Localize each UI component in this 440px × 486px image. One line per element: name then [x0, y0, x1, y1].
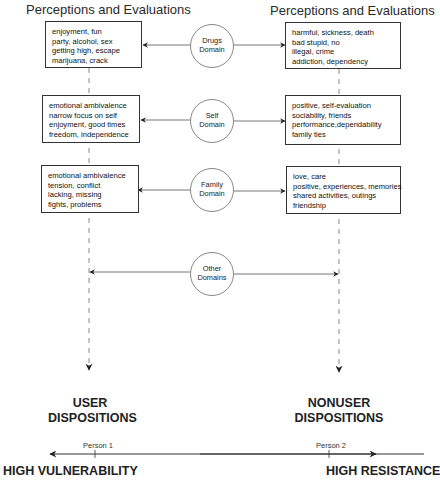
box-line: getting high, escape [52, 46, 135, 56]
self-domain-node: Self Domain [190, 99, 234, 143]
user-self-box: emotional ambivalence narrow focus on se… [42, 95, 140, 143]
box-line: freedom, independence [49, 130, 133, 140]
node-label: Domain [199, 190, 224, 199]
box-line: love, care [293, 172, 394, 182]
box-line: marijuana, crack [52, 56, 135, 66]
node-label: Domain [199, 46, 224, 55]
person-2-label: Person 2 [316, 441, 346, 450]
nonuser-family-box: love, care positive, experiences, memori… [286, 166, 401, 214]
right-column-title: Perceptions and Evaluations [270, 3, 435, 18]
node-label: Domain [199, 121, 224, 130]
nonuser-drugs-box: harmful, sickness, death bad stupid, no … [285, 22, 401, 69]
box-line: party, alcohol, sex [52, 37, 135, 47]
box-line: emotional ambivalence [49, 101, 133, 111]
box-line: bad stupid, no [292, 38, 394, 48]
left-column-title: Perceptions and Evaluations [26, 2, 191, 17]
box-line: emotional ambivalence [48, 171, 132, 181]
high-vulnerability-label: HIGH VULNERABILITY [3, 464, 138, 478]
box-line: illegal, crime [292, 47, 394, 57]
family-domain-node: Family Domain [190, 168, 234, 212]
user-family-box: emotional ambivalence tension, conflict … [41, 165, 139, 213]
box-line: narrow focus on self [49, 111, 133, 121]
box-line: addiction, dependency [292, 57, 394, 67]
box-line: shared activities, outings [293, 191, 394, 201]
box-line: family ties [292, 130, 394, 140]
nonuser-dispositions-label: NONUSER DISPOSITIONS [286, 396, 392, 426]
drugs-domain-node: Drugs Domain [190, 24, 234, 68]
box-line: harmful, sickness, death [292, 28, 394, 38]
disp-line: DISPOSITIONS [48, 411, 132, 426]
other-domains-node: Other Domains [190, 252, 234, 296]
box-line: positive, self-evaluation [292, 101, 394, 111]
box-line: enjoyment, good times [49, 120, 133, 130]
user-drugs-box: enjoyment, fun party, alcohol, sex getti… [45, 21, 142, 68]
box-line: friendship [293, 201, 394, 211]
disp-line: USER [48, 396, 132, 411]
box-line: tension, conflict [48, 181, 132, 191]
disp-line: DISPOSITIONS [286, 411, 392, 426]
node-label: Domains [197, 274, 226, 283]
person-1-label: Person 1 [83, 441, 113, 450]
nonuser-self-box: positive, self-evaluation sociability, f… [285, 95, 401, 145]
disp-line: NONUSER [286, 396, 392, 411]
box-line: enjoyment, fun [52, 27, 135, 37]
high-resistance-label: HIGH RESISTANCE [326, 464, 440, 478]
box-line: fights, problems [48, 200, 132, 210]
user-dispositions-label: USER DISPOSITIONS [48, 396, 132, 426]
box-line: positive, experiences, memories [293, 182, 394, 192]
box-line: performance,dependability [292, 120, 394, 130]
box-line: sociability, friends [292, 111, 394, 121]
box-line: lacking, missing [48, 190, 132, 200]
